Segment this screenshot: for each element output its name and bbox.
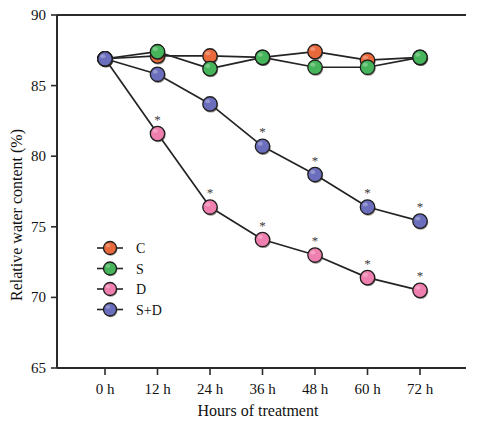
legend-marker-highlight [106, 264, 111, 268]
legend-marker [104, 283, 117, 296]
marker-highlight [205, 99, 210, 103]
relative-water-content-line-chart: 908580757065 0 h12 h24 h36 h48 h60 h72 h… [0, 0, 484, 427]
y-tick-label: 90 [31, 7, 46, 23]
data-point [413, 283, 427, 297]
marker-highlight [310, 63, 315, 67]
legend-marker-highlight [106, 305, 111, 309]
y-axis-title: Relative water content (%) [8, 129, 26, 301]
data-point [255, 50, 269, 64]
x-tick-label: 12 h [144, 381, 171, 397]
marker-highlight [100, 54, 105, 58]
y-tick-label: 85 [31, 78, 46, 94]
marker-highlight [363, 56, 368, 60]
data-point [308, 60, 322, 74]
data-point [203, 97, 217, 111]
marker-highlight [363, 273, 368, 277]
significance-star: * [259, 218, 266, 233]
plot-frame [57, 15, 466, 368]
marker-highlight [363, 202, 368, 206]
legend-marker [104, 242, 117, 255]
series-markers-S [98, 45, 428, 78]
marker-highlight [258, 142, 263, 146]
data-point [150, 45, 164, 59]
x-tick-label: 0 h [96, 381, 115, 397]
marker-highlight [415, 217, 420, 221]
marker-highlight [153, 47, 158, 51]
data-point [360, 60, 374, 74]
x-tick-label: 48 h [302, 381, 329, 397]
y-tick-label: 80 [31, 148, 46, 164]
significance-star: * [312, 153, 319, 168]
legend-marker-highlight [106, 244, 111, 248]
marker-highlight [205, 64, 210, 68]
data-point [255, 232, 269, 246]
x-tick-label: 72 h [407, 381, 434, 397]
marker-highlight [153, 70, 158, 74]
data-point [255, 139, 269, 153]
legend-label: S [136, 262, 144, 277]
legend-marker-highlight [106, 285, 111, 289]
x-axis-ticks: 0 h12 h24 h36 h48 h60 h72 h [96, 368, 434, 397]
x-axis-title: Hours of treatment [198, 402, 319, 419]
series-markers-S-plus-D [98, 52, 428, 230]
legend-item-S: S [97, 262, 144, 277]
marker-highlight [415, 53, 420, 57]
chart-figure: 908580757065 0 h12 h24 h36 h48 h60 h72 h… [0, 0, 484, 427]
marker-highlight [363, 63, 368, 67]
marker-highlight [310, 250, 315, 254]
legend-label: S+D [136, 303, 162, 318]
marker-highlight [205, 202, 210, 206]
data-point [150, 126, 164, 140]
significance-star: * [364, 256, 371, 271]
data-point [308, 45, 322, 59]
data-point [360, 200, 374, 214]
significance-markers: ********** [154, 112, 423, 284]
legend-item-S-plus-D: S+D [97, 303, 162, 318]
data-point [150, 67, 164, 81]
x-tick-label: 24 h [197, 381, 224, 397]
marker-highlight [415, 286, 420, 290]
marker-highlight [310, 47, 315, 51]
marker-highlight [258, 53, 263, 57]
legend-marker [104, 303, 117, 316]
y-tick-label: 70 [31, 289, 46, 305]
data-point [203, 200, 217, 214]
y-axis-ticks: 908580757065 [31, 7, 57, 376]
marker-highlight [205, 51, 210, 55]
significance-star: * [364, 185, 371, 200]
x-tick-label: 60 h [354, 381, 381, 397]
data-point [308, 248, 322, 262]
y-tick-label: 75 [31, 219, 46, 235]
series-line-D [105, 59, 420, 291]
data-point [360, 270, 374, 284]
data-point [98, 52, 112, 66]
data-point [308, 167, 322, 181]
significance-star: * [417, 199, 424, 214]
significance-star: * [207, 185, 214, 200]
significance-star: * [312, 233, 319, 248]
significance-star: * [259, 124, 266, 139]
significance-star: * [417, 268, 424, 283]
legend: CSDS+D [97, 241, 162, 318]
y-tick-label: 65 [31, 360, 46, 376]
legend-item-D: D [97, 282, 146, 297]
marker-highlight [258, 235, 263, 239]
legend-label: C [136, 241, 145, 256]
legend-marker [104, 262, 117, 275]
legend-label: D [136, 282, 146, 297]
marker-highlight [310, 170, 315, 174]
series-markers-D [98, 52, 428, 299]
x-tick-label: 36 h [249, 381, 276, 397]
legend-item-C: C [97, 241, 145, 256]
marker-highlight [153, 129, 158, 133]
series-layer [98, 45, 428, 299]
significance-star: * [154, 112, 161, 127]
data-point [413, 214, 427, 228]
data-point [413, 50, 427, 64]
data-point [203, 61, 217, 75]
